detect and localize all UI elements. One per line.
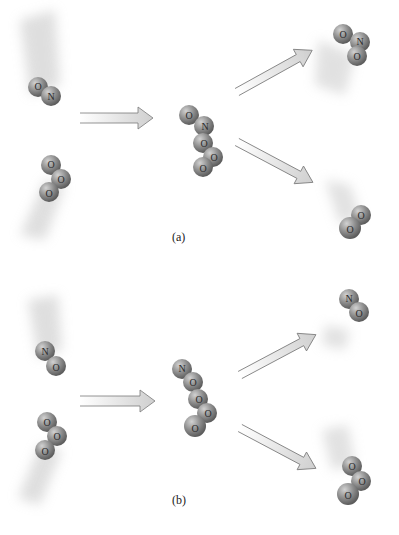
atom-label: O	[353, 51, 360, 62]
atom-label: N	[178, 363, 185, 374]
arrow-down-right	[235, 419, 320, 477]
panel-a: O N O O O O N O O O	[20, 10, 371, 240]
atom-label: O	[41, 446, 48, 457]
atom-label: N	[41, 346, 48, 357]
panel-a-caption: (a)	[172, 230, 185, 245]
atom-label: O	[189, 377, 196, 388]
arrow-up-right	[232, 42, 317, 101]
atom-label: N	[47, 91, 54, 102]
reactant-o3: O O O	[35, 412, 67, 460]
atom-label: O	[199, 163, 206, 174]
atom-label: O	[346, 224, 353, 235]
atom-label: O	[52, 362, 59, 373]
atom-label: N	[356, 36, 363, 47]
atom-label: O	[43, 417, 50, 428]
arrow-right	[80, 390, 155, 412]
arrow-up-right	[235, 326, 320, 384]
atom-label: O	[57, 174, 64, 185]
activated-complex: N O O O O	[172, 359, 217, 437]
atom-label: O	[355, 308, 362, 319]
motion-trail	[322, 325, 350, 350]
motion-trail	[315, 40, 355, 95]
atom-label: O	[344, 490, 351, 501]
atom-label: O	[185, 110, 192, 121]
atom-label: O	[45, 188, 52, 199]
atom-label: O	[339, 29, 346, 40]
product-no: N O	[339, 289, 369, 322]
atom-label: O	[348, 461, 355, 472]
atom-label: O	[210, 152, 217, 163]
arrow-right	[80, 107, 153, 129]
atom-label: O	[191, 423, 198, 434]
arrow-down-right	[232, 133, 317, 191]
atom-label: O	[204, 408, 211, 419]
collision-diagram: O N O O O O N O O O	[0, 0, 399, 535]
atom-label: O	[47, 159, 54, 170]
panel-b-caption: (b)	[172, 493, 186, 508]
atom-label: O	[53, 431, 60, 442]
atom-label: O	[200, 138, 207, 149]
atom-label: O	[195, 394, 202, 405]
atom-label: N	[345, 293, 352, 304]
activated-complex: O N O O O	[179, 105, 223, 177]
atom-label: O	[357, 210, 364, 221]
atom-label: O	[358, 476, 365, 487]
reactant-o3: O O O	[39, 155, 71, 202]
atom-label: O	[34, 81, 41, 92]
atom-label: N	[201, 121, 208, 132]
panel-b: N O O O O N O O O O	[18, 289, 371, 505]
